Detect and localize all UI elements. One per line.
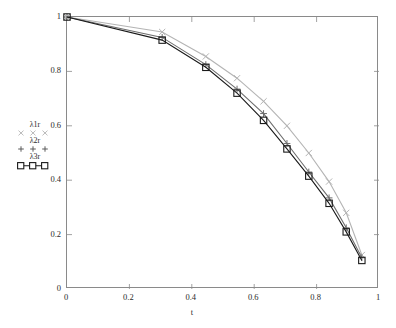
chart-figure: λ1r λ2r: [0, 0, 396, 328]
x-tick-label: 0: [54, 292, 78, 302]
legend-entry-lambda3r: λ3r: [15, 153, 55, 169]
x-tick-label: 0.6: [241, 292, 265, 302]
x-tick-label: 0.2: [116, 292, 140, 302]
legend-marker-square-icon: [15, 161, 55, 169]
y-tick-label: 1: [31, 11, 61, 21]
legend-entry-lambda2r: λ2r: [15, 137, 55, 153]
legend-label-lambda2r: λ2r: [30, 137, 41, 145]
x-axis-title: t: [0, 307, 396, 317]
y-tick-label: 0.2: [31, 229, 61, 239]
x-tick-label: 0.4: [179, 292, 203, 302]
x-tick-label: 0.8: [304, 292, 328, 302]
x-tick-label: 1: [366, 292, 390, 302]
plot-area: [66, 16, 378, 288]
x-axis-title-text: t: [191, 307, 193, 317]
y-tick-label: 0.6: [31, 120, 61, 130]
plot-canvas: [67, 17, 379, 289]
y-tick-label: 0.4: [31, 174, 61, 184]
y-tick-label: 0.8: [31, 65, 61, 75]
